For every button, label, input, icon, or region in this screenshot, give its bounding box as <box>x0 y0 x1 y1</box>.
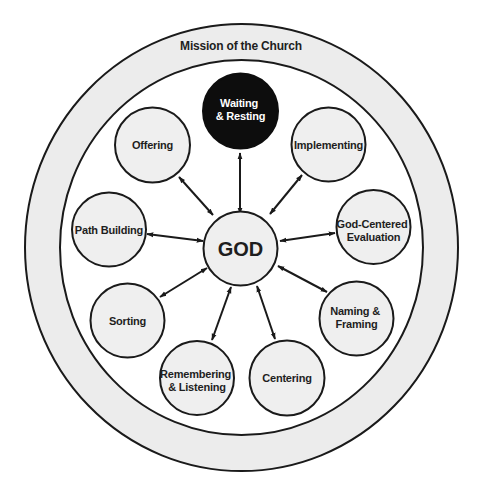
node-sorting: Sorting <box>91 284 165 358</box>
node-offering-label: Offering <box>132 139 173 151</box>
node-god-centered-evaluation-label: God-Centered Evaluation <box>337 218 411 243</box>
node-god: GOD <box>204 212 278 286</box>
mission-diagram: Mission of the Church GOD Waiting & Rest… <box>0 0 482 491</box>
node-remembering-listening-label: Remembering & Listening <box>160 368 234 393</box>
node-implementing-label: Implementing <box>294 139 363 151</box>
node-path-building-label: Path Building <box>75 224 143 236</box>
node-naming-framing-label: Naming & Framing <box>330 305 383 330</box>
node-centering: Centering <box>250 341 325 416</box>
node-sorting-label: Sorting <box>109 315 146 327</box>
mission-ring-label: Mission of the Church <box>180 39 302 53</box>
node-naming-framing: Naming & Framing <box>320 282 394 356</box>
node-waiting-resting-label: Waiting & Resting <box>216 97 266 122</box>
node-waiting-resting: Waiting & Resting <box>203 74 278 149</box>
node-offering: Offering <box>115 108 190 183</box>
node-centering-label: Centering <box>262 372 312 384</box>
node-god-label: GOD <box>218 238 264 260</box>
node-remembering-listening: Remembering & Listening <box>160 341 234 415</box>
node-implementing: Implementing <box>292 108 366 182</box>
node-god-centered-evaluation: God-Centered Evaluation <box>337 190 411 264</box>
node-path-building: Path Building <box>72 193 146 267</box>
